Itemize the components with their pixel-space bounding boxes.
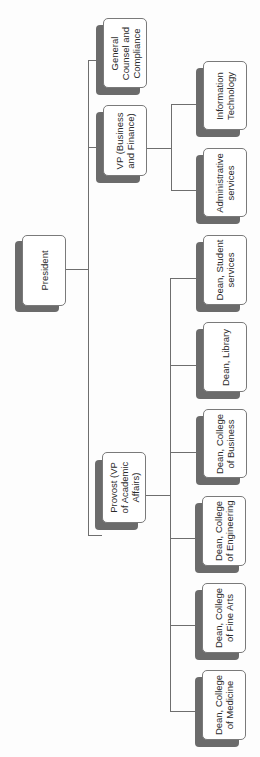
- node-box: President: [22, 235, 66, 306]
- node-dean-college-medicine: Dean, College of Medicine: [195, 670, 247, 748]
- node-dean-college-engineering: Dean, College of Engineering: [195, 496, 247, 574]
- node-label-dean-college-medicine: Dean, College of Medicine: [213, 670, 235, 740]
- connector-provost-trunk: [146, 495, 170, 496]
- node-provost: Provost (VP of Academic Affairs): [95, 452, 147, 531]
- node-label-dean-student-services: Dean, Student services: [214, 235, 236, 305]
- node-label-president: President: [39, 236, 50, 306]
- node-box: Dean, College of Medicine: [202, 670, 246, 740]
- node-box: Provost (VP of Academic Affairs): [102, 452, 146, 523]
- node-label-administrative-services: Administrative services: [214, 148, 236, 217]
- node-dean-student-services: Dean, Student services: [196, 235, 248, 313]
- node-box: VP (Business and Finance): [103, 105, 147, 176]
- node-dean-college-business: Dean, College of Business: [196, 409, 248, 486]
- node-box: General Counsel and Compliance: [103, 18, 147, 88]
- connector-vp-spine: [171, 104, 172, 191]
- node-label-vp-business-finance: VP (Business and Finance): [114, 106, 136, 176]
- connector-level1-spine: [88, 60, 89, 536]
- node-box: Dean, College of Business: [203, 409, 247, 478]
- node-label-dean-college-fine-arts: Dean, College of Fine Arts: [213, 583, 235, 653]
- node-information-technology: Information Technology: [196, 61, 248, 138]
- node-label-provost: Provost (VP of Academic Affairs): [108, 453, 141, 523]
- node-dean-library: Dean, Library: [196, 322, 248, 400]
- connector-to-provost: [88, 535, 102, 536]
- node-label-information-technology: Information Technology: [214, 61, 236, 130]
- node-president: President: [15, 235, 67, 313]
- node-box: Administrative services: [203, 148, 247, 217]
- node-box: Information Technology: [203, 61, 247, 130]
- connector-president-trunk: [65, 269, 88, 270]
- node-label-dean-college-business: Dean, College of Business: [214, 409, 236, 478]
- connector-provost-spine: [170, 278, 171, 712]
- node-box: Dean, Library: [203, 322, 247, 392]
- node-dean-college-fine-arts: Dean, College of Fine Arts: [195, 583, 247, 661]
- node-box: Dean, College of Engineering: [202, 496, 246, 566]
- node-label-dean-library: Dean, Library: [220, 322, 231, 392]
- node-label-dean-college-engineering: Dean, College of Engineering: [213, 496, 235, 566]
- node-box: Dean, Student services: [203, 235, 247, 305]
- node-vp-business-finance: VP (Business and Finance): [96, 105, 148, 184]
- node-label-general-counsel: General Counsel and Compliance: [109, 18, 142, 88]
- node-general-counsel: General Counsel and Compliance: [96, 18, 148, 96]
- node-administrative-services: Administrative services: [196, 148, 248, 225]
- node-box: Dean, College of Fine Arts: [202, 583, 246, 653]
- connector-vp-trunk: [147, 148, 171, 149]
